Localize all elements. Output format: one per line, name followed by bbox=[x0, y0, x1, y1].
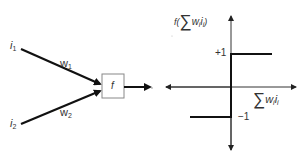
perceptron-diagram: i1 i2 w1 w2 f f(∑wiii) ∑wiii +1 −1 bbox=[0, 0, 301, 154]
y-axis-label: f(∑wiii) bbox=[174, 13, 207, 30]
x-axis-label: ∑wiii bbox=[253, 91, 279, 108]
diagram-lines bbox=[0, 0, 301, 154]
plus-one-label: +1 bbox=[215, 48, 226, 58]
input-1-label: i1 bbox=[10, 40, 16, 52]
function-box-label: f bbox=[111, 81, 114, 91]
minus-one-label: −1 bbox=[238, 112, 249, 122]
weight-1-label: w1 bbox=[60, 58, 72, 70]
weight-2-label: w2 bbox=[60, 107, 72, 119]
input-2-label: i2 bbox=[10, 118, 16, 130]
